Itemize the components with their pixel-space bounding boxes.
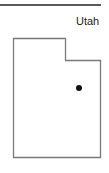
state-map bbox=[0, 0, 109, 173]
utah-outline bbox=[14, 39, 101, 158]
location-marker-dot bbox=[76, 85, 82, 91]
